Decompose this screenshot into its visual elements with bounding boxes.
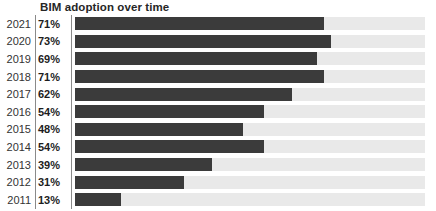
column-separator [71,85,72,103]
bar [75,123,243,136]
row-category-label: 2011 [0,191,31,209]
bar [75,35,331,48]
column-separator [71,15,72,33]
bim-adoption-bar-chart: BIM adoption over time 202171%202073%201… [0,0,436,211]
bar [75,88,292,101]
bar-track [75,105,425,118]
row-category-label: 2013 [0,156,31,174]
column-separator [71,103,72,121]
row-value-label: 39% [38,156,68,174]
row-value-label: 54% [38,138,68,156]
bar-track [75,70,425,83]
bar-track [75,140,425,153]
chart-row: 202073% [0,33,436,51]
bar-track [75,158,425,171]
bar-track [75,193,425,206]
chart-row: 201548% [0,121,436,139]
row-category-label: 2019 [0,50,31,68]
chart-rows: 202171%202073%201969%201871%201762%20165… [0,15,436,209]
row-category-label: 2021 [0,15,31,33]
chart-row: 201969% [0,50,436,68]
column-separator [71,138,72,156]
column-separator [71,156,72,174]
row-value-label: 62% [38,85,68,103]
row-value-label: 69% [38,50,68,68]
row-category-label: 2020 [0,33,31,51]
row-value-label: 73% [38,33,68,51]
row-category-label: 2017 [0,85,31,103]
row-value-label: 54% [38,103,68,121]
chart-row: 202171% [0,15,436,33]
column-separator [35,191,36,209]
column-separator [35,138,36,156]
row-category-label: 2014 [0,138,31,156]
column-separator [35,103,36,121]
column-separator [71,173,72,191]
chart-row: 201113% [0,191,436,209]
bar [75,70,324,83]
bar [75,193,121,206]
bar [75,176,184,189]
bar-track [75,52,425,65]
column-separator [71,121,72,139]
column-separator [35,85,36,103]
bar [75,105,264,118]
column-separator [71,50,72,68]
chart-row: 201654% [0,103,436,121]
row-value-label: 13% [38,191,68,209]
bar [75,140,264,153]
column-separator [35,121,36,139]
bar-track [75,123,425,136]
row-value-label: 71% [38,68,68,86]
chart-row: 201231% [0,173,436,191]
chart-row: 201762% [0,85,436,103]
bar [75,158,212,171]
bar [75,52,317,65]
column-separator [35,50,36,68]
chart-row: 201339% [0,156,436,174]
column-separator [71,191,72,209]
bar-track [75,35,425,48]
row-category-label: 2018 [0,68,31,86]
chart-row: 201454% [0,138,436,156]
column-separator [35,33,36,51]
bar [75,17,324,30]
bar-track [75,17,425,30]
row-category-label: 2016 [0,103,31,121]
bar-track [75,88,425,101]
bar-track [75,176,425,189]
chart-row: 201871% [0,68,436,86]
chart-title: BIM adoption over time [40,1,169,14]
column-separator [71,33,72,51]
row-value-label: 71% [38,15,68,33]
row-value-label: 48% [38,121,68,139]
column-separator [35,15,36,33]
row-value-label: 31% [38,173,68,191]
column-separator [35,156,36,174]
column-separator [35,68,36,86]
column-separator [71,68,72,86]
row-category-label: 2015 [0,121,31,139]
row-category-label: 2012 [0,173,31,191]
column-separator [35,173,36,191]
